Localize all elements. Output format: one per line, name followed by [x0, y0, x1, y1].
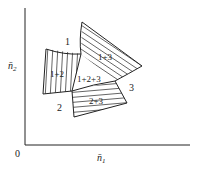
origin-label: 0 — [15, 148, 20, 159]
x-axis-label: n̄1 — [97, 152, 106, 165]
diagram-canvas: 1 2 3 1+2 1+3 2+3 1+2+3 0 n̄1 n̄2 — [0, 0, 197, 169]
region-label-1-3: 1+3 — [98, 52, 113, 62]
region-label-2-3: 2+3 — [89, 96, 104, 106]
y-axis-label: n̄2 — [8, 60, 17, 73]
region-label-1: 1 — [65, 36, 70, 47]
region-label-3: 3 — [129, 82, 134, 93]
region-label-1-2-3: 1+2+3 — [77, 74, 101, 84]
region-label-1-2: 1+2 — [50, 69, 64, 79]
region-diagram: 1 2 3 1+2 1+3 2+3 1+2+3 0 n̄1 n̄2 — [0, 0, 197, 169]
region-label-2: 2 — [57, 102, 62, 113]
